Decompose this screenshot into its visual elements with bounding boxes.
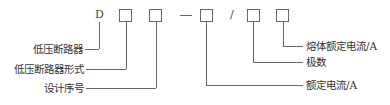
label-rated-current: 额定电流/A — [306, 79, 357, 91]
leader-line-box2-horizontal — [86, 88, 156, 89]
label-design-serial: 设计序号 — [44, 82, 84, 94]
leader-line-box4-horizontal — [253, 62, 303, 63]
code-box-1 — [119, 9, 132, 22]
label-poles: 极数 — [306, 56, 326, 68]
label-fuse-rated-current: 熔体额定电流/A — [306, 40, 377, 52]
label-breaker-type: 低压断路器形式 — [14, 63, 84, 75]
code-box-5 — [276, 9, 289, 22]
leader-line-box3-vertical — [206, 22, 207, 85]
code-slash-separator: / — [230, 9, 234, 21]
leader-line-box5-vertical — [283, 22, 284, 46]
code-box-3 — [200, 9, 213, 22]
leader-line-box4-vertical — [253, 22, 254, 62]
leader-line-box1-vertical — [126, 22, 127, 69]
leader-line-prefix-vertical — [99, 22, 100, 49]
leader-line-box1-horizontal — [86, 69, 126, 70]
code-prefix-d: D — [95, 9, 104, 21]
leader-line-box3-horizontal — [206, 85, 303, 86]
leader-line-box2-vertical — [156, 22, 157, 88]
leader-line-prefix-horizontal — [85, 49, 99, 50]
label-low-voltage-breaker: 低压断路器 — [33, 43, 83, 55]
leader-line-box5-horizontal — [283, 46, 303, 47]
code-box-4 — [247, 9, 260, 22]
code-dash-separator — [180, 15, 192, 16]
code-box-2 — [149, 9, 162, 22]
